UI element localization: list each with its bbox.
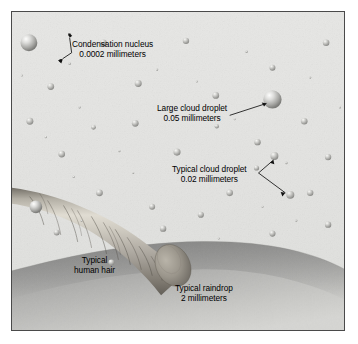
figure-frame: Condensation nucleus 0.0002 millimeters … [11, 11, 345, 331]
droplet [323, 40, 330, 47]
droplet-speck [285, 162, 287, 164]
droplet-speck [73, 176, 75, 178]
droplet-speck [156, 69, 158, 71]
droplet [198, 212, 204, 218]
droplet-speck [196, 81, 198, 83]
droplet [58, 151, 65, 158]
droplet-speck [339, 106, 341, 108]
droplet-speck [261, 206, 263, 208]
droplet-speck [21, 75, 23, 77]
label-condensation-nucleus-value: 0.0002 millimeters [72, 50, 153, 60]
droplet-speck [118, 150, 120, 152]
droplet-speck [45, 136, 47, 138]
droplet [254, 165, 259, 170]
droplet [160, 225, 166, 231]
droplet [149, 204, 155, 210]
droplet-speck [234, 118, 236, 120]
label-large-cloud-droplet-value: 0.05 millimeters [157, 114, 227, 124]
droplet-speck [132, 172, 134, 174]
label-typical-raindrop: Typical raindrop 2 millimeters [175, 284, 233, 303]
droplet [54, 230, 60, 236]
droplet [29, 200, 42, 213]
droplet [254, 139, 260, 145]
droplet-speck [78, 106, 80, 108]
droplet [173, 149, 180, 156]
label-typical-cloud-droplet: Typical cloud droplet 0.02 millimeters [172, 165, 247, 184]
label-large-cloud-droplet: Large cloud droplet 0.05 millimeters [157, 104, 227, 123]
droplet [26, 118, 33, 125]
droplet [20, 34, 37, 51]
droplet [96, 189, 103, 196]
droplet [307, 190, 313, 196]
label-condensation-nucleus: Condensation nucleus 0.0002 millimeters [72, 40, 153, 59]
label-typical-raindrop-value: 2 millimeters [175, 294, 233, 304]
droplet [212, 92, 219, 99]
droplet [325, 154, 331, 160]
droplet [263, 90, 281, 108]
droplet [183, 38, 189, 44]
droplet-speck [295, 220, 297, 222]
droplet [269, 231, 275, 237]
droplet [135, 80, 142, 87]
label-typical-human-hair: Typical human hair [74, 256, 115, 275]
figure-illustration: Condensation nucleus 0.0002 millimeters … [0, 0, 358, 344]
droplet-speck [68, 62, 70, 64]
droplet-speck [309, 76, 311, 78]
droplet [47, 83, 54, 90]
droplet-speck [245, 51, 247, 53]
droplet [269, 65, 275, 71]
label-typical-cloud-droplet-value: 0.02 millimeters [172, 175, 247, 185]
droplet-speck [218, 238, 220, 240]
typical-cloud-droplet-lower [286, 191, 294, 199]
droplet [325, 221, 331, 227]
label-typical-human-hair-value: human hair [74, 266, 115, 276]
droplet [215, 124, 219, 128]
droplet-speck [81, 220, 83, 222]
droplet [301, 118, 308, 125]
droplet [91, 125, 96, 130]
droplet [226, 190, 233, 197]
typical-cloud-droplet-upper [270, 152, 278, 160]
droplet [132, 120, 139, 127]
